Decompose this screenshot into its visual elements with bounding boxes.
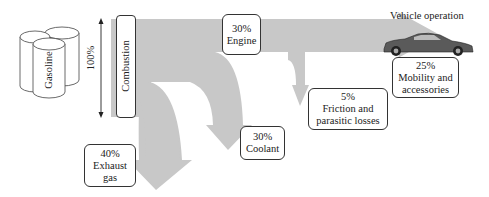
coolant-percent: 30% — [253, 131, 272, 143]
mobility-label-line2: accessories — [402, 84, 449, 96]
total-double-arrow-icon — [99, 18, 104, 118]
energy-flow-diagram: Gasoline 100% Combustion 30% Engine Vehi… — [0, 0, 489, 197]
flow-bands — [111, 12, 440, 190]
exhaust-label-line2: gas — [103, 172, 117, 184]
friction-label-line1: Friction and — [322, 103, 373, 115]
mobility-label-line1: Mobility and — [398, 72, 453, 84]
engine-label: Engine — [227, 35, 257, 47]
friction-flow-arrow — [288, 52, 309, 106]
vehicle-operation-label: Vehicle operation — [390, 10, 464, 21]
exhaust-label-line1: Exhaust — [93, 160, 127, 172]
gasoline-label: Gasoline — [43, 48, 55, 92]
coolant-label-box: 30% Coolant — [240, 126, 285, 160]
coolant-label: Coolant — [246, 143, 279, 155]
combustion-label: Combustion — [120, 36, 132, 96]
engine-label-box: 30% Engine — [222, 14, 261, 55]
engine-percent: 30% — [232, 23, 251, 35]
total-percent-label: 100% — [85, 43, 97, 73]
mobility-label-box: 25% Mobility and accessories — [392, 57, 459, 98]
friction-percent: 5% — [341, 91, 355, 103]
friction-label-box: 5% Friction and parasitic losses — [308, 88, 388, 130]
friction-label-line2: parasitic losses — [316, 115, 379, 127]
exhaust-label-box: 40% Exhaust gas — [84, 144, 136, 187]
exhaust-percent: 40% — [100, 148, 119, 160]
mobility-percent: 25% — [416, 60, 435, 72]
